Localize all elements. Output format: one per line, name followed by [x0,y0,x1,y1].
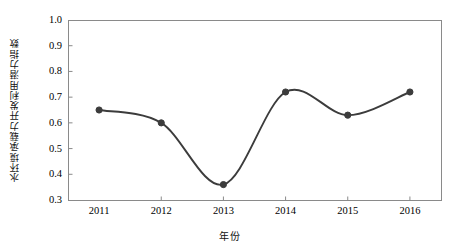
data-series-line [99,90,410,185]
chart-figure: 水环境承载力开发利用潜力指数 0.30.40.50.60.70.80.91.0 … [0,0,459,252]
x-tick-marks [161,197,410,201]
plot-area [0,0,459,252]
y-tick-marks [69,46,73,175]
data-point-markers [96,89,413,188]
plot-frame [69,21,442,201]
x-axis-title: 年份 [0,228,459,243]
